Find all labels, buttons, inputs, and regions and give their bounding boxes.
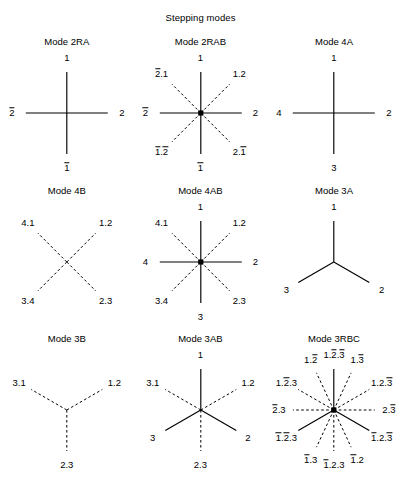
- hub-marker: [331, 407, 336, 412]
- ray-3-1-dashed: [165, 390, 201, 410]
- mode-panel-4ab: Mode 4AB12341.24.13.42.3: [134, 179, 268, 327]
- mode-panel-3rbc: Mode 3RBC1.2.31.2.31.2.31.21.31.2.31.2.3…: [267, 327, 401, 478]
- ray-label-2: 2: [119, 108, 124, 118]
- ray-label-1: 1: [64, 53, 69, 63]
- ray-label-2: 2: [386, 108, 391, 118]
- ray-2-3-dashed: [67, 262, 96, 291]
- ray-1-2-dashed: [200, 233, 229, 262]
- ray-label-2: 2: [379, 285, 384, 295]
- ray-label-4: 4: [143, 257, 148, 267]
- mode-panel-4a: Mode 4A1234: [267, 30, 401, 179]
- stepping-modes-grid: Mode 2RA1212Mode 2RAB12121.22.11.22.1Mod…: [0, 30, 401, 478]
- ray-label-2-1bar: 2.1: [233, 147, 246, 157]
- ray-label-1: 1: [331, 202, 336, 212]
- mode-title-2ra: Mode 2RA: [0, 36, 134, 47]
- ray-label-4-1: 4.1: [155, 218, 168, 228]
- ray-1-2-dashed: [200, 84, 229, 113]
- ray-2bar-1-dashed: [171, 84, 200, 113]
- ray-label-2-3bar: 2.3: [382, 405, 395, 415]
- diagram-4a: 1234: [267, 52, 401, 178]
- ray-label-2: 2: [253, 108, 258, 118]
- hub-marker: [198, 110, 203, 115]
- ray-label-1-2bar-3: 1.2.3: [276, 378, 297, 388]
- ray-label-3-1: 3.1: [146, 378, 159, 388]
- mode-title-2rab: Mode 2RAB: [134, 36, 268, 47]
- hub-marker: [198, 259, 203, 264]
- mode-title-4b: Mode 4B: [0, 185, 134, 196]
- ray-label-3: 3: [150, 433, 155, 443]
- mode-panel-4b: Mode 4B1.24.13.42.3: [0, 179, 134, 327]
- ray-1bar-2bar-dashed: [171, 113, 200, 142]
- ray-label-2: 2: [245, 433, 250, 443]
- mode-title-3rbc: Mode 3RBC: [267, 333, 401, 344]
- ray-label-2bar-1: 2.1: [155, 69, 168, 79]
- ray-label-1-2: 1.2: [108, 378, 121, 388]
- ray-label-1: 1: [331, 53, 336, 63]
- ray-3-solid: [298, 262, 334, 282]
- ray-label-2-3: 2.3: [233, 296, 246, 306]
- mode-panel-3ab: Mode 3AB1231.23.12.3: [134, 327, 268, 478]
- ray-label-1: 1: [198, 53, 203, 63]
- ray-4-1-dashed: [171, 233, 200, 262]
- ray-3-1-dashed: [31, 390, 67, 410]
- ray-label-1-3bar: 1.3: [351, 355, 364, 365]
- ray-2-solid: [200, 410, 236, 430]
- diagram-3rbc: 1.2.31.2.31.2.31.21.31.2.31.2.32.32.31.3…: [267, 349, 401, 475]
- mode-title-4a: Mode 4A: [267, 36, 401, 47]
- ray-2-1bar-dashed: [200, 113, 229, 142]
- ray-1-2-dashed: [67, 233, 96, 262]
- ray-label-1-2: 1.2: [233, 218, 246, 228]
- figure-title: Stepping modes: [0, 12, 401, 23]
- diagram-2ra: 1212: [0, 52, 134, 178]
- ray-4-1-dashed: [38, 233, 67, 262]
- ray-label-1bar-2-3bar: 1.2.3: [371, 433, 392, 443]
- ray-label-1bar-3: 1.3: [304, 455, 317, 465]
- diagram-3ab: 1231.23.12.3: [134, 349, 268, 475]
- mode-panel-3b: Mode 3B1.23.12.3: [0, 327, 134, 478]
- mode-panel-2rab: Mode 2RAB12121.22.11.22.1: [134, 30, 268, 179]
- ray-label-1-2-3bar: 1.2.3: [371, 378, 392, 388]
- ray-label-3: 3: [284, 285, 289, 295]
- ray-label-1: 1: [198, 202, 203, 212]
- ray-label-1bar: 1: [198, 163, 203, 173]
- ray-label-1-2: 1.2: [241, 378, 254, 388]
- ray-3-solid: [165, 410, 201, 430]
- ray-label-3-1: 3.1: [13, 378, 26, 388]
- diagram-4ab: 12341.24.13.42.3: [134, 201, 268, 327]
- ray-label-2bar: 2: [143, 108, 148, 118]
- ray-label-3-4: 3.4: [155, 296, 168, 306]
- ray-2-solid: [334, 262, 370, 282]
- ray-label-3: 3: [198, 312, 203, 322]
- ray-label-3: 3: [331, 163, 336, 173]
- ray-label-1-2bar-3bar: 1.2.3: [323, 350, 344, 360]
- ray-3-4-dashed: [38, 262, 67, 291]
- ray-label-1bar: 1: [64, 163, 69, 173]
- ray-label-1-2bar: 1.2: [304, 355, 317, 365]
- ray-label-2-3: 2.3: [194, 460, 207, 470]
- ray-label-3-4: 3.4: [21, 296, 34, 306]
- mode-title-3ab: Mode 3AB: [134, 333, 268, 344]
- ray-label-1bar-2bar-3: 1.2.3: [276, 433, 297, 443]
- ray-label-1: 1: [198, 350, 203, 360]
- diagram-3b: 1.23.12.3: [0, 349, 134, 475]
- mode-title-3b: Mode 3B: [0, 333, 134, 344]
- ray-label-2bar: 2: [9, 108, 14, 118]
- ray-label-1-2: 1.2: [99, 218, 112, 228]
- ray-label-1bar-2: 1.2: [351, 455, 364, 465]
- ray-label-1-2: 1.2: [233, 69, 246, 79]
- ray-label-1bar-2-3: 1.2.3: [323, 460, 344, 470]
- ray-label-4: 4: [276, 108, 281, 118]
- ray-2-3-dashed: [200, 262, 229, 291]
- ray-label-2-3: 2.3: [60, 460, 73, 470]
- ray-label-2-3: 2.3: [99, 296, 112, 306]
- ray-label-2bar-3: 2.3: [272, 405, 285, 415]
- diagram-4b: 1.24.13.42.3: [0, 201, 134, 327]
- diagram-3a: 123: [267, 201, 401, 327]
- ray-1-2-dashed: [200, 390, 236, 410]
- ray-label-1bar-2bar: 1.2: [155, 147, 168, 157]
- ray-label-2: 2: [253, 257, 258, 267]
- diagram-2rab: 12121.22.11.22.1: [134, 52, 268, 178]
- ray-label-4-1: 4.1: [21, 218, 34, 228]
- ray-3-4-dashed: [171, 262, 200, 291]
- mode-title-4ab: Mode 4AB: [134, 185, 268, 196]
